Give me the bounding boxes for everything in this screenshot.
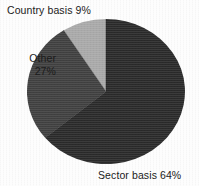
pie-label-other-name: Other (29, 52, 56, 64)
pie-chart-graphic (27, 19, 185, 164)
pie-svg (27, 19, 185, 164)
pie-label-sector-basis: Sector basis 64% (98, 169, 181, 182)
pie-label-other-percent: 27% (8, 65, 56, 78)
pie-label-other: Other 27% (8, 52, 56, 77)
pie-chart-figure: Country basis 9% Other 27% Sector basis … (0, 0, 199, 186)
pie-label-country-basis: Country basis 9% (7, 4, 91, 17)
